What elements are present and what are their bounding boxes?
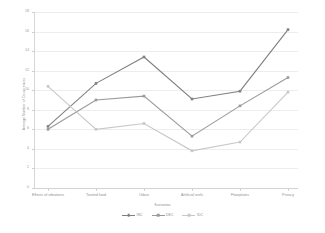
legend-line-swatch (122, 215, 135, 216)
legend-line-swatch (152, 215, 165, 216)
y-tick-label: 0 (15, 186, 29, 190)
y-tick-label: 16 (15, 30, 29, 34)
data-point-marker (95, 128, 98, 131)
y-tick-label: 8 (15, 108, 29, 112)
x-axis-line (34, 188, 298, 189)
chart-legend: INCDECIDC (0, 213, 325, 217)
data-point-marker (143, 95, 146, 98)
y-tick-label: 14 (15, 49, 29, 53)
legend-marker-icon (157, 214, 160, 217)
series-line (48, 30, 288, 127)
legend-marker-icon (127, 214, 130, 217)
data-point-marker (95, 82, 98, 85)
line-chart: Average Number of Occurrences 0246810121… (0, 0, 325, 233)
legend-marker-icon (188, 214, 191, 217)
x-tick-label: Artificial reefs (181, 193, 203, 197)
legend-item[interactable]: INC (122, 213, 143, 217)
legend-label: INC (137, 213, 143, 217)
data-point-marker (191, 150, 194, 153)
y-axis-title: Average Number of Occurrences (22, 49, 26, 159)
data-point-marker (143, 122, 146, 125)
data-point-marker (239, 90, 242, 93)
y-tick-label: 10 (15, 88, 29, 92)
series-line (48, 78, 288, 137)
x-axis-title: Scenarios (0, 203, 325, 207)
x-tick-label: Odour (139, 193, 149, 197)
legend-item[interactable]: DEC (152, 213, 174, 217)
data-point-marker (47, 85, 50, 88)
x-tick-label: Effects of vibrations (32, 193, 64, 197)
data-point-marker (47, 125, 50, 128)
data-point-marker (287, 28, 290, 31)
legend-line-swatch (182, 215, 195, 216)
data-point-marker (239, 105, 242, 108)
data-point-marker (143, 56, 146, 59)
y-tick-label: 12 (15, 69, 29, 73)
data-point-marker (287, 76, 290, 79)
y-tick-label: 4 (15, 147, 29, 151)
x-tick-label: Tainted food (86, 193, 106, 197)
data-point-marker (287, 91, 290, 94)
data-point-marker (47, 128, 50, 131)
x-tick-label: Privacy (282, 193, 294, 197)
plot-area: 024681012141618 (34, 12, 298, 188)
x-tick-label: Floorplates (231, 193, 249, 197)
series-line (48, 86, 288, 151)
legend-label: IDC (197, 213, 203, 217)
legend-item[interactable]: IDC (182, 213, 203, 217)
y-tick-label: 6 (15, 127, 29, 131)
data-point-marker (239, 141, 242, 144)
series-lines (34, 12, 298, 188)
y-tick-label: 18 (15, 10, 29, 14)
data-point-marker (191, 135, 194, 138)
y-tick-label: 2 (15, 166, 29, 170)
data-point-marker (95, 99, 98, 102)
legend-label: DEC (166, 213, 173, 217)
data-point-marker (191, 98, 194, 101)
